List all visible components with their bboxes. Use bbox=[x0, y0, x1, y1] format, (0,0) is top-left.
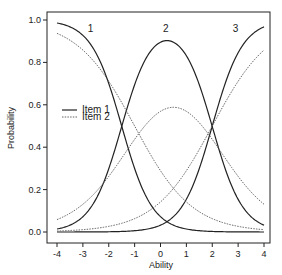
x-axis-title: Ability bbox=[149, 260, 174, 270]
y-tick-label: 0.0 bbox=[28, 227, 41, 237]
plot-border bbox=[47, 12, 270, 243]
y-axis: 0.00.20.40.60.81.0 bbox=[28, 15, 47, 237]
curves bbox=[57, 23, 264, 232]
x-tick-label: 0 bbox=[158, 249, 163, 259]
item1-category-1-curve bbox=[57, 23, 264, 232]
legend-label: Item 2 bbox=[82, 111, 110, 122]
y-axis-title: Probability bbox=[6, 106, 16, 149]
item2-category-2-curve bbox=[57, 107, 264, 219]
x-tick-label: -2 bbox=[105, 249, 113, 259]
item2-category-3-curve bbox=[57, 50, 264, 231]
x-tick-label: -1 bbox=[131, 249, 139, 259]
y-tick-label: 0.8 bbox=[28, 57, 41, 67]
y-tick-label: 1.0 bbox=[28, 15, 41, 25]
x-tick-label: -4 bbox=[53, 249, 61, 259]
y-tick-label: 0.4 bbox=[28, 142, 41, 152]
x-axis: -4-3-2-101234 bbox=[53, 243, 267, 259]
y-tick-label: 0.2 bbox=[28, 185, 41, 195]
legend: Item 1Item 2 bbox=[62, 104, 110, 122]
category-label: 1 bbox=[88, 23, 94, 34]
x-tick-label: 1 bbox=[184, 249, 189, 259]
category-label: 2 bbox=[163, 23, 169, 34]
x-tick-label: 4 bbox=[261, 249, 266, 259]
category-label: 3 bbox=[233, 23, 239, 34]
plot-frame bbox=[47, 12, 270, 243]
icc-chart: -4-3-2-101234 0.00.20.40.60.81.0 123 Ite… bbox=[0, 0, 282, 275]
y-tick-label: 0.6 bbox=[28, 100, 41, 110]
item1-category-2-curve bbox=[57, 41, 264, 229]
category-labels: 123 bbox=[88, 23, 239, 34]
x-tick-label: 2 bbox=[210, 249, 215, 259]
x-tick-label: -3 bbox=[79, 249, 87, 259]
item1-category-3-curve bbox=[57, 27, 264, 232]
x-tick-label: 3 bbox=[236, 249, 241, 259]
